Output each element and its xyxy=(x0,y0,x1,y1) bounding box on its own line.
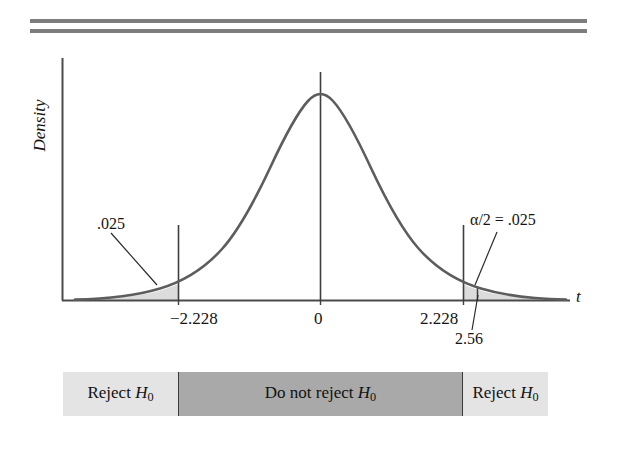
decision-segment-reject-left: Reject H0 xyxy=(63,372,178,416)
reject-left-symbol: H xyxy=(135,383,147,402)
reject-right-subscript: 0 xyxy=(532,390,538,404)
left-tail-area-annotation: .025 xyxy=(97,216,125,232)
y-axis-title: Density xyxy=(31,122,48,152)
x-tick-label-negative: −2.228 xyxy=(170,310,218,327)
right-annotation-leader xyxy=(475,232,497,285)
reject-right-text: Reject H0 xyxy=(472,383,538,405)
reject-right-symbol: H xyxy=(520,383,532,402)
reject-right-prefix: Reject xyxy=(472,383,520,402)
do-not-reject-subscript: 0 xyxy=(370,390,376,404)
x-tick-label-zero: 0 xyxy=(314,310,323,327)
do-not-reject-text: Do not reject H0 xyxy=(265,383,376,405)
decision-segment-reject-right: Reject H0 xyxy=(463,372,548,416)
do-not-reject-symbol: H xyxy=(358,383,370,402)
reject-left-text: Reject H0 xyxy=(87,383,153,405)
do-not-reject-prefix: Do not reject xyxy=(265,383,358,402)
decision-segment-do-not-reject: Do not reject H0 xyxy=(178,372,463,416)
reject-left-subscript: 0 xyxy=(147,390,153,404)
reject-left-prefix: Reject xyxy=(87,383,135,402)
right-tail-area-annotation: α/2 = .025 xyxy=(470,212,536,228)
x-tick-label-positive: 2.228 xyxy=(420,310,458,327)
x-axis-title: t xyxy=(576,288,581,305)
observed-statistic-annotation: 2.56 xyxy=(455,331,483,347)
left-annotation-leader xyxy=(111,233,157,285)
figure-container: Density t −2.228 0 2.228 .025 α/2 = .025… xyxy=(0,0,617,453)
decision-bar: Reject H0 Do not reject H0 Reject H0 xyxy=(63,372,548,416)
